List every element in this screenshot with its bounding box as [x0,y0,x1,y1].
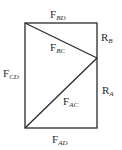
label-f-cd: FCD [3,68,19,81]
label-f-bc: FBC [50,42,65,55]
label-r-a: RA [102,85,114,98]
label-r-b: RB [101,32,113,45]
member-ac-line [25,58,97,128]
label-f-bd: FBD [50,9,65,22]
label-f-ac: FAC [63,96,78,109]
label-f-ad: FAD [52,134,67,147]
force-polygon-rectangle [25,23,97,128]
